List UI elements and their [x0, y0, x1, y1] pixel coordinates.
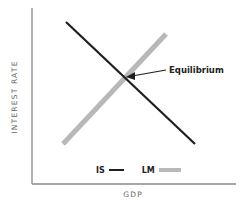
y-axis-label: INTEREST RATE: [10, 60, 19, 133]
is-lm-chart: INTEREST RATE GDP Equilibrium IS LM: [0, 0, 248, 210]
legend-lm-label: LM: [142, 166, 155, 175]
x-axis-label: GDP: [123, 190, 143, 199]
equilibrium-label: Equilibrium: [169, 65, 224, 75]
equilibrium-arrow: [132, 70, 166, 76]
chart-canvas: [0, 0, 248, 210]
legend-lm-swatch: [159, 168, 181, 172]
is-curve: [66, 22, 195, 144]
lm-curve: [63, 34, 166, 144]
legend-is-label: IS: [96, 166, 105, 175]
legend-is-swatch: [109, 169, 124, 172]
legend: IS LM: [96, 164, 181, 176]
